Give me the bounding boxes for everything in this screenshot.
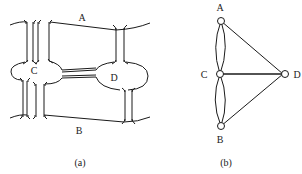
node-a xyxy=(218,18,225,25)
label-b-node-b: B xyxy=(217,135,224,145)
edge-a-d xyxy=(221,21,283,74)
label-a-bank-b: B xyxy=(76,126,83,136)
bank-b-edge xyxy=(44,115,150,122)
label-b-node-a: A xyxy=(216,3,223,13)
bank-a-edge xyxy=(50,22,150,30)
caption-b: (b) xyxy=(220,158,232,168)
island-c-bottom-right xyxy=(45,78,62,84)
island-c-left xyxy=(11,62,25,80)
island-d-top-left xyxy=(96,62,114,70)
label-a-island-c: C xyxy=(31,66,38,76)
label-b-node-d: D xyxy=(293,70,300,80)
bank-b-edge-left xyxy=(10,115,27,118)
node-c xyxy=(217,71,224,78)
label-a-bank-a: A xyxy=(78,13,85,23)
caption-a: (a) xyxy=(74,158,85,168)
edge-c-b-2 xyxy=(220,74,225,126)
edge-c-b-1 xyxy=(215,74,221,126)
bridge-cd-bottom xyxy=(62,75,96,76)
bridge-cd-top xyxy=(62,68,96,70)
figure-b-graph xyxy=(215,18,288,130)
konigsberg-figure xyxy=(0,0,302,174)
edge-a-c-2 xyxy=(220,21,225,74)
node-b xyxy=(218,123,225,130)
node-d xyxy=(282,71,289,78)
edge-b-d xyxy=(221,74,283,126)
edge-a-c-1 xyxy=(216,21,221,74)
label-b-node-c: C xyxy=(201,70,208,80)
island-d-right xyxy=(126,62,148,90)
bank-a-edge-left xyxy=(10,22,27,25)
label-a-island-d: D xyxy=(110,73,117,83)
